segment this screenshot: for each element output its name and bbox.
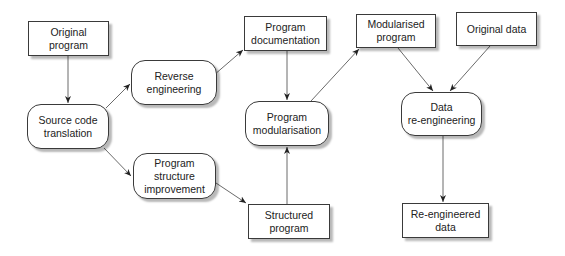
node-label: Program modularisation xyxy=(253,111,321,137)
node-label: Reverse engineering xyxy=(147,70,202,96)
node-modularised-program: Modularised program xyxy=(356,14,436,48)
node-reverse-engineering: Reverse engineering xyxy=(131,60,217,105)
node-program-modularisation: Program modularisation xyxy=(245,101,329,146)
node-program-documentation: Program documentation xyxy=(244,16,327,51)
edge-source-code-translation-to-reverse-engineering xyxy=(106,84,130,108)
edge-program-structure-improvement-to-structured-program xyxy=(216,183,246,203)
node-label: Data re-engineering xyxy=(408,101,476,127)
node-label: Modularised program xyxy=(367,18,424,44)
edge-reverse-engineering-to-program-documentation xyxy=(214,50,243,75)
node-reengineered-data: Re-engineered data xyxy=(402,203,489,238)
node-original-data: Original data xyxy=(456,12,537,46)
node-label: Original program xyxy=(49,26,88,52)
node-source-code-translation: Source code translation xyxy=(27,104,109,149)
node-program-structure-improvement: Program structure improvement xyxy=(133,153,216,199)
node-label: Program documentation xyxy=(251,21,320,47)
node-label: Original data xyxy=(467,23,527,36)
node-label: Re-engineered data xyxy=(411,208,480,234)
node-structured-program: Structured program xyxy=(248,204,330,239)
node-label: Source code translation xyxy=(39,114,98,140)
edge-modularised-program-to-data-reengineering xyxy=(398,48,433,91)
node-data-reengineering: Data re-engineering xyxy=(401,92,482,136)
node-original-program: Original program xyxy=(28,21,109,56)
edge-original-data-to-data-reengineering xyxy=(450,46,490,91)
edge-program-modularisation-to-modularised-program xyxy=(311,49,359,101)
node-label: Program structure improvement xyxy=(144,157,205,196)
node-label: Structured program xyxy=(265,209,313,235)
reengineering-process-diagram: Original program Source code translation… xyxy=(0,0,565,256)
edge-source-code-translation-to-program-structure-improvement xyxy=(104,148,131,176)
